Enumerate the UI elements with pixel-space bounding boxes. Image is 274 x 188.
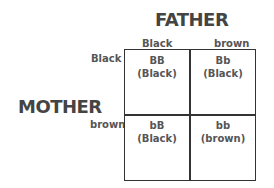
mother-heading: MOTHER (18, 96, 102, 117)
cell-genotype: BB (125, 54, 189, 67)
punnett-square-grid: BB (Black) Bb (Black) bB (Black) bb (bro… (124, 49, 256, 181)
cell-brown-black: bB (Black) (125, 119, 189, 145)
cell-bb-black-black: BB (Black) (125, 54, 189, 80)
father-allele-black: Black (142, 38, 172, 49)
father-heading: FATHER (155, 9, 228, 30)
mother-allele-brown: brown (90, 119, 125, 130)
cell-phenotype: (Black) (125, 132, 189, 145)
cell-genotype: Bb (191, 54, 255, 67)
cell-genotype: bB (125, 119, 189, 132)
grid-divider-horizontal (125, 114, 255, 116)
mother-allele-black: Black (91, 53, 121, 64)
cell-brown-brown: bb (brown) (191, 119, 255, 145)
cell-genotype: bb (191, 119, 255, 132)
cell-phenotype: (brown) (191, 132, 255, 145)
cell-black-brown: Bb (Black) (191, 54, 255, 80)
father-allele-brown: brown (214, 38, 249, 49)
cell-phenotype: (Black) (191, 67, 255, 80)
cell-phenotype: (Black) (125, 67, 189, 80)
